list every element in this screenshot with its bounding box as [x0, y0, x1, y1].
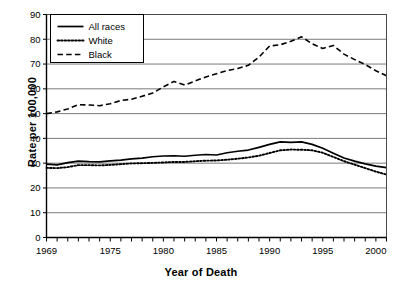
x-tick-label: 2000: [365, 245, 386, 256]
legend-label-black: Black: [89, 49, 112, 60]
x-tick-label: 1980: [153, 245, 174, 256]
x-tick-labels: 1969197519801985199019952000: [36, 245, 387, 256]
y-tick-label: 0: [35, 232, 40, 243]
legend-label-white: White: [89, 35, 113, 46]
y-tick-label: 90: [30, 9, 41, 20]
x-tick-label: 1990: [259, 245, 280, 256]
x-axis-title: Year of Death: [0, 266, 402, 278]
x-tick-label: 1995: [312, 245, 333, 256]
line-chart: 0102030405060708090 19691975198019851990…: [0, 0, 402, 287]
legend: All racesWhiteBlack: [51, 15, 144, 63]
y-axis-title: Rate per 100,000: [26, 27, 38, 217]
x-tick-label: 1975: [100, 245, 121, 256]
legend-label-all-races: All races: [89, 21, 126, 32]
x-tick-label: 1969: [36, 245, 57, 256]
x-tick-label: 1985: [206, 245, 227, 256]
series-line-all-races: [47, 142, 387, 168]
plot-area: 0102030405060708090 19691975198019851990…: [0, 0, 402, 287]
